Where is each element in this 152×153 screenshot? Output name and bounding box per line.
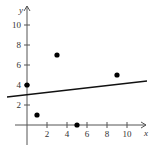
data-point <box>34 112 39 117</box>
scatter-plot: 246810246810 x y <box>0 0 152 153</box>
y-tick-label: 4 <box>17 80 22 90</box>
y-tick-label: 10 <box>12 20 22 30</box>
x-tick-label: 8 <box>105 129 110 139</box>
data-point <box>24 82 29 87</box>
data-point <box>54 52 59 57</box>
axes <box>15 6 146 145</box>
data-point <box>74 122 79 127</box>
x-axis-label: x <box>143 128 148 138</box>
y-tick-label: 6 <box>17 60 22 70</box>
x-tick-label: 10 <box>123 129 133 139</box>
y-tick-label: 2 <box>17 100 22 110</box>
y-axis-label: y <box>18 5 23 15</box>
tick-marks: 246810246810 <box>12 20 132 139</box>
y-tick-label: 8 <box>17 40 22 50</box>
data-point <box>114 72 119 77</box>
x-tick-label: 2 <box>45 129 50 139</box>
x-tick-label: 6 <box>85 129 90 139</box>
x-tick-label: 4 <box>65 129 70 139</box>
